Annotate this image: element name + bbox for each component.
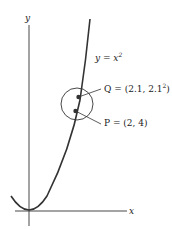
curve-equation-label: y = x2 — [94, 51, 122, 63]
point-q-label: Q = (2.1, 2.12) — [104, 82, 170, 94]
y-axis-label: y — [24, 13, 31, 23]
p-leader-line — [76, 111, 102, 124]
x-axis-label: x — [129, 206, 134, 216]
point-p-label: P = (2, 4) — [104, 118, 148, 128]
parabola-curve — [11, 19, 90, 210]
point-q-label-close: ) — [166, 84, 170, 94]
curve-equation-text: y = x — [94, 53, 118, 63]
curve-equation-exponent: 2 — [117, 51, 122, 58]
parabola-diagram: y x y = x2 Q = (2.1, 2.12) P = (2, 4) — [0, 0, 172, 230]
point-q-label-text: Q = (2.1, 2.1 — [104, 84, 163, 94]
